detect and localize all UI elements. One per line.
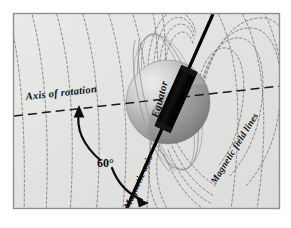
magnetic-field-diagram: Axis of rotation 60° Equator Magnetic ax… (0, 0, 291, 228)
tilt-angle-label: 60° (97, 156, 114, 170)
